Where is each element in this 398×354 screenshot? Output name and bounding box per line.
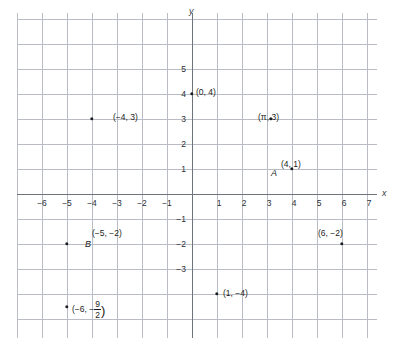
x-tick-label: −2	[137, 198, 147, 208]
data-point[interactable]	[65, 305, 68, 308]
fraction-denominator: 2	[94, 311, 101, 320]
gridline-horizontal	[17, 19, 377, 20]
data-point[interactable]	[215, 292, 218, 295]
y-tick-label: 3	[172, 114, 186, 124]
gridline-vertical	[217, 13, 218, 338]
gridline-vertical	[42, 13, 43, 338]
y-tick-label: −1	[170, 214, 186, 224]
fraction-numerator: 9	[94, 300, 101, 309]
gridline-vertical	[342, 13, 343, 338]
data-point-name-a: A	[271, 168, 277, 178]
y-tick-label: −2	[170, 239, 186, 249]
gridline-vertical	[292, 13, 293, 338]
gridline-horizontal	[17, 319, 377, 320]
x-tick-label: 4	[292, 198, 297, 208]
gridline-horizontal	[17, 219, 377, 220]
data-point-label: (1, −4)	[223, 288, 248, 298]
y-tick-label: 1	[172, 164, 186, 174]
gridline-horizontal	[17, 119, 377, 120]
gridline-horizontal	[17, 294, 377, 295]
data-point-label: (−4, 3)	[113, 112, 138, 122]
x-tick-label: 6	[342, 198, 347, 208]
x-tick-label: 1	[217, 198, 222, 208]
gridline-horizontal	[17, 69, 377, 70]
data-point-label: (π, 3)	[258, 112, 279, 122]
x-tick-label: −1	[162, 198, 172, 208]
x-tick-label: −4	[87, 198, 97, 208]
gridline-vertical	[267, 13, 268, 338]
y-tick-label: 2	[172, 139, 186, 149]
gridline-vertical	[117, 13, 118, 338]
y-tick-label: 5	[172, 64, 186, 74]
x-tick-label: −3	[112, 198, 122, 208]
gridline-horizontal	[17, 169, 377, 170]
fraction-prefix: (−6, −	[72, 304, 94, 314]
fraction: 92	[94, 300, 101, 320]
data-point-label: (0, 4)	[196, 87, 216, 97]
data-point-name-b: B	[85, 239, 91, 249]
data-point-label-fraction: (−6, −92)	[72, 300, 105, 320]
data-point-label: (−5, −2)	[92, 228, 122, 238]
x-tick-label: −5	[62, 198, 72, 208]
gridline-vertical	[317, 13, 318, 338]
data-point-label: (6, −2)	[318, 228, 343, 238]
gridline-horizontal	[17, 44, 377, 45]
gridline-vertical	[167, 13, 168, 338]
x-tick-label: 5	[317, 198, 322, 208]
x-tick-label: 7	[367, 198, 372, 208]
x-axis-label: x	[382, 188, 387, 198]
data-point[interactable]	[340, 242, 343, 245]
y-tick-label: 4	[172, 89, 186, 99]
y-tick-label: −3	[170, 264, 186, 274]
gridline-horizontal	[17, 144, 377, 145]
data-point[interactable]	[65, 242, 68, 245]
data-point[interactable]	[90, 117, 93, 120]
x-tick-label: 3	[267, 198, 272, 208]
y-axis	[192, 13, 193, 338]
gridline-vertical	[17, 13, 18, 338]
gridline-horizontal	[17, 269, 377, 270]
y-axis-label: y	[189, 6, 194, 16]
gridline-horizontal	[17, 244, 377, 245]
gridline-vertical	[92, 13, 93, 338]
gridline-vertical	[142, 13, 143, 338]
x-axis	[17, 194, 377, 195]
data-point-label: (4, 1)	[281, 159, 301, 169]
x-tick-label: 2	[242, 198, 247, 208]
coordinate-plane-figure: y x −6 −5 −4 −3 −2 −1 1 2 3 4 5 6 7 5 4 …	[0, 0, 398, 354]
fraction-suffix: )	[101, 303, 105, 318]
gridline-vertical	[367, 13, 368, 338]
gridline-vertical	[67, 13, 68, 338]
x-tick-label: −6	[37, 198, 47, 208]
